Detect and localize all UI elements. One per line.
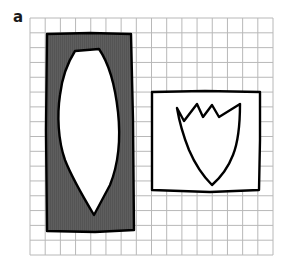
white-rectangle-figure [152, 91, 260, 192]
dark-rectangle-figure [46, 33, 134, 232]
figure-canvas [0, 0, 289, 272]
